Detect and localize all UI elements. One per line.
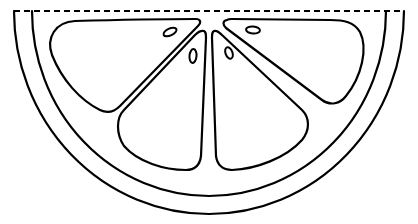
seed-4 [246, 26, 261, 34]
segment-top-left [50, 19, 200, 112]
segment-top-right [224, 19, 364, 103]
seed-2 [189, 49, 197, 64]
seed-1 [162, 26, 178, 38]
outer-peel-arc [14, 11, 404, 214]
citrus-slice-illustration [0, 0, 418, 224]
citrus-slice-svg [0, 0, 418, 224]
seed-3 [224, 46, 235, 60]
